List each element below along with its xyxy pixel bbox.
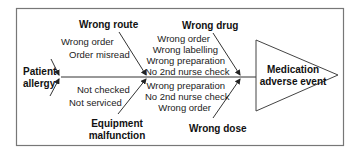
effect-label-line1: Medication: [254, 64, 332, 75]
equipment-malfunction-cause: Not checked: [77, 84, 130, 95]
wrong-drug-cause: Wrong preparation: [145, 55, 225, 66]
wrong-dose-cause: Wrong preparation: [145, 80, 225, 91]
wrong-drug-cause: Wrong order: [150, 33, 210, 44]
equipment-malfunction-label-line2: malfunction: [85, 130, 149, 141]
wrong-route-title: Wrong route: [79, 19, 138, 30]
effect-label-line2: adverse event: [254, 76, 332, 87]
equipment-malfunction-cause: Not serviced: [69, 97, 122, 108]
patient-allergy-label-line1: Patient: [23, 66, 56, 77]
wrong-route-cause: Wrong order: [61, 36, 114, 47]
wrong-drug-title: Wrong drug: [182, 20, 238, 31]
wrong-route-cause: Order misread: [69, 49, 130, 60]
wrong-dose-title: Wrong dose: [189, 123, 247, 134]
wrong-dose-cause: No 2nd nurse check: [145, 91, 227, 102]
patient-allergy-label-line2: allergy: [23, 78, 55, 89]
wrong-dose-cause: Wrong order: [150, 102, 211, 113]
wrong-drug-cause: No 2nd nurse check: [145, 66, 227, 77]
wrong-drug-cause: Wrong labelling: [150, 44, 218, 55]
fishbone-diagram: Wrong route Wrong order Order misread Pa…: [0, 0, 358, 155]
equipment-malfunction-label-line1: Equipment: [87, 118, 147, 129]
